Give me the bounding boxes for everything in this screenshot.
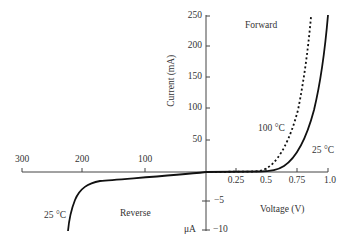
y-tick-neg5: −5 — [214, 196, 224, 206]
x-tick-0-5: 0.5 — [251, 176, 281, 186]
forward-region-label: Forward — [245, 21, 277, 31]
x-tick-0-75: 0.75 — [282, 176, 312, 186]
y-tick-neg10: −10 — [213, 225, 228, 235]
curve-25c-reverse — [68, 172, 206, 231]
curve-100c-forward — [206, 17, 311, 172]
x-axis-title: Voltage (V) — [260, 205, 304, 215]
y-tick-200: 200 — [172, 41, 202, 51]
x-tick-0-25: 0.25 — [221, 176, 251, 186]
x-tick-100: 100 — [130, 155, 160, 165]
y-axis-title: Current (mA) — [167, 51, 177, 111]
annotation-25c-reverse: 25 °C — [44, 211, 66, 221]
y-tick-250: 250 — [172, 11, 202, 21]
reverse-unit-label: μA — [184, 225, 196, 235]
x-tick-300: 300 — [7, 155, 37, 165]
x-ticks — [22, 168, 328, 172]
annotation-100c: 100 °C — [258, 124, 285, 134]
annotation-25c-forward: 25 °C — [312, 146, 334, 156]
y-tick-50: 50 — [172, 135, 202, 145]
x-tick-1-0: 1.0 — [315, 176, 345, 186]
x-tick-200: 200 — [67, 155, 97, 165]
curve-25c-forward — [206, 15, 328, 172]
diode-iv-chart: 250 200 150 100 50 −5 −10 μA 300 200 100… — [0, 0, 349, 246]
reverse-region-label: Reverse — [120, 209, 151, 219]
